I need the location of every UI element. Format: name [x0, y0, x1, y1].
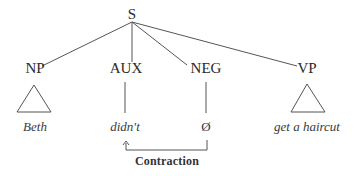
leaf-aux: didn't — [110, 119, 140, 135]
contraction-label: Contraction — [135, 154, 199, 169]
node-np: NP — [25, 60, 44, 77]
branch-s-neg — [132, 22, 187, 65]
node-s: S — [128, 6, 136, 23]
tree-lines — [0, 0, 358, 176]
node-aux: AUX — [110, 60, 143, 77]
syntax-tree-diagram: S NP AUX NEG VP Beth didn't Ø get a hair… — [0, 0, 358, 176]
leaf-neg: Ø — [201, 119, 210, 135]
node-neg: NEG — [191, 60, 222, 77]
leaf-vp: get a haircut — [274, 119, 340, 135]
leaf-np: Beth — [23, 119, 47, 135]
node-vp: VP — [297, 60, 316, 77]
contraction-bracket — [126, 140, 207, 150]
vp-triangle — [291, 84, 325, 112]
np-triangle — [17, 85, 51, 112]
